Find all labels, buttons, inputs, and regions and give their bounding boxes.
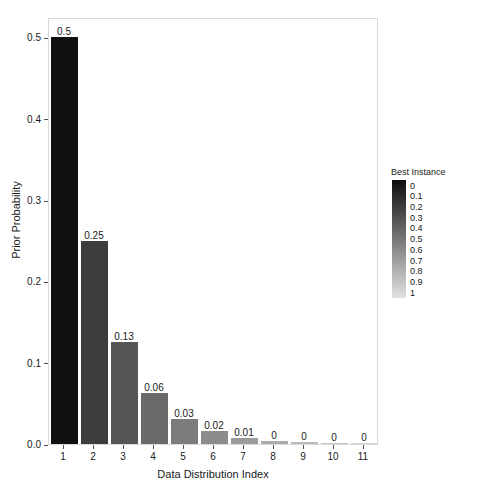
legend-tick-label: 0 xyxy=(410,181,415,192)
bar xyxy=(81,241,108,444)
bar-value-label: 0.06 xyxy=(134,382,174,393)
y-tick-label: 0.0 xyxy=(27,438,41,451)
legend-tick-labels: 00.10.20.30.40.50.60.70.80.91 xyxy=(410,180,470,298)
y-tick-label: 0.1 xyxy=(27,357,41,370)
plot-area: 0.50.250.130.060.030.020.010000 xyxy=(49,19,377,444)
x-tick-label: 11 xyxy=(351,450,375,463)
bar xyxy=(111,342,138,444)
bar xyxy=(141,393,168,444)
x-tick-mark xyxy=(63,445,64,449)
x-tick-label: 4 xyxy=(141,450,165,463)
bar-chart: Prior Probability 0.00.10.20.30.40.5 0.5… xyxy=(0,0,479,486)
x-tick-mark xyxy=(243,445,244,449)
legend-tick-label: 1 xyxy=(410,288,415,299)
bar-value-label: 0.03 xyxy=(164,408,204,419)
plot-panel: 0.50.250.130.060.030.020.010000 xyxy=(48,18,378,445)
y-tick-label: 0.2 xyxy=(27,275,41,288)
x-tick-label: 7 xyxy=(231,450,255,463)
x-tick-label: 3 xyxy=(111,450,135,463)
x-tick-mark xyxy=(93,445,94,449)
x-tick-mark xyxy=(333,445,334,449)
legend: Best Instance 00.10.20.30.40.50.60.70.80… xyxy=(391,166,477,298)
y-tick-label: 0.4 xyxy=(27,113,41,126)
x-tick-mark xyxy=(303,445,304,449)
x-tick-mark xyxy=(273,445,274,449)
legend-tick-label: 0.1 xyxy=(410,191,423,202)
x-tick-mark xyxy=(183,445,184,449)
legend-tick-label: 0.2 xyxy=(410,202,423,213)
x-tick-label: 6 xyxy=(201,450,225,463)
x-tick-label: 10 xyxy=(321,450,345,463)
bar-value-label: 0 xyxy=(344,432,384,443)
legend-tick-label: 0.7 xyxy=(410,256,423,267)
legend-tick-label: 0.3 xyxy=(410,213,423,224)
y-axis-title: Prior Probability xyxy=(10,140,22,300)
legend-body: 00.10.20.30.40.50.60.70.80.91 xyxy=(391,180,477,298)
x-tick-label: 8 xyxy=(261,450,285,463)
bar xyxy=(321,443,348,444)
legend-tick-label: 0.5 xyxy=(410,234,423,245)
x-tick-label: 1 xyxy=(51,450,75,463)
x-tick-mark xyxy=(213,445,214,449)
x-tick-label: 9 xyxy=(291,450,315,463)
x-tick-label: 2 xyxy=(81,450,105,463)
legend-title: Best Instance xyxy=(391,166,477,178)
y-tick-label: 0.3 xyxy=(27,194,41,207)
legend-tick-label: 0.6 xyxy=(410,245,423,256)
legend-tick-label: 0.9 xyxy=(410,277,423,288)
legend-tick-label: 0.4 xyxy=(410,223,423,234)
x-tick-label: 5 xyxy=(171,450,195,463)
x-tick-mark xyxy=(363,445,364,449)
bar xyxy=(351,443,378,444)
bar xyxy=(51,37,78,444)
x-axis: 1234567891011 Data Distribution Index xyxy=(48,445,378,485)
y-axis: Prior Probability 0.00.10.20.30.40.5 xyxy=(0,18,48,445)
legend-colorbar xyxy=(392,180,406,298)
x-tick-mark xyxy=(153,445,154,449)
x-tick-mark xyxy=(123,445,124,449)
bar-value-label: 0.5 xyxy=(44,26,84,37)
legend-tick-label: 0.8 xyxy=(410,266,423,277)
bar-value-label: 0.25 xyxy=(74,230,114,241)
x-axis-title: Data Distribution Index xyxy=(48,468,378,480)
bar-value-label: 0.13 xyxy=(104,331,144,342)
y-tick-label: 0.5 xyxy=(27,31,41,44)
